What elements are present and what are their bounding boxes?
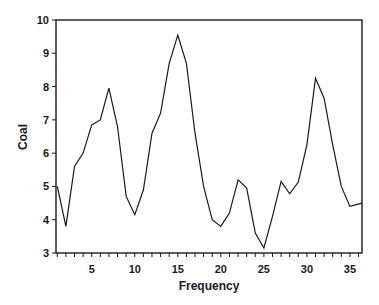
y-axis-title: Coal [16,124,30,150]
y-tick-label: 10 [37,14,49,26]
plot-frame [56,20,362,253]
y-axis: 345678910 [37,14,56,259]
line-chart: 345678910 5101520253035 Frequency Coal [0,0,379,305]
y-tick-label: 5 [43,180,49,192]
x-tick-label: 10 [129,263,141,275]
x-tick-label: 25 [258,263,270,275]
y-tick-label: 7 [43,114,49,126]
x-tick-label: 30 [301,263,313,275]
x-axis: 5101520253035 [57,253,358,275]
x-tick-label: 35 [344,263,356,275]
y-tick-label: 6 [43,147,49,159]
x-tick-label: 15 [172,263,184,275]
y-tick-label: 9 [43,47,49,59]
x-axis-title: Frequency [179,279,240,293]
x-tick-label: 20 [215,263,227,275]
plot-border [56,20,362,253]
x-tick-label: 5 [89,263,95,275]
y-tick-label: 3 [43,247,49,259]
y-tick-label: 8 [43,81,49,93]
y-tick-label: 4 [43,214,50,226]
coal-series-line [57,35,362,248]
